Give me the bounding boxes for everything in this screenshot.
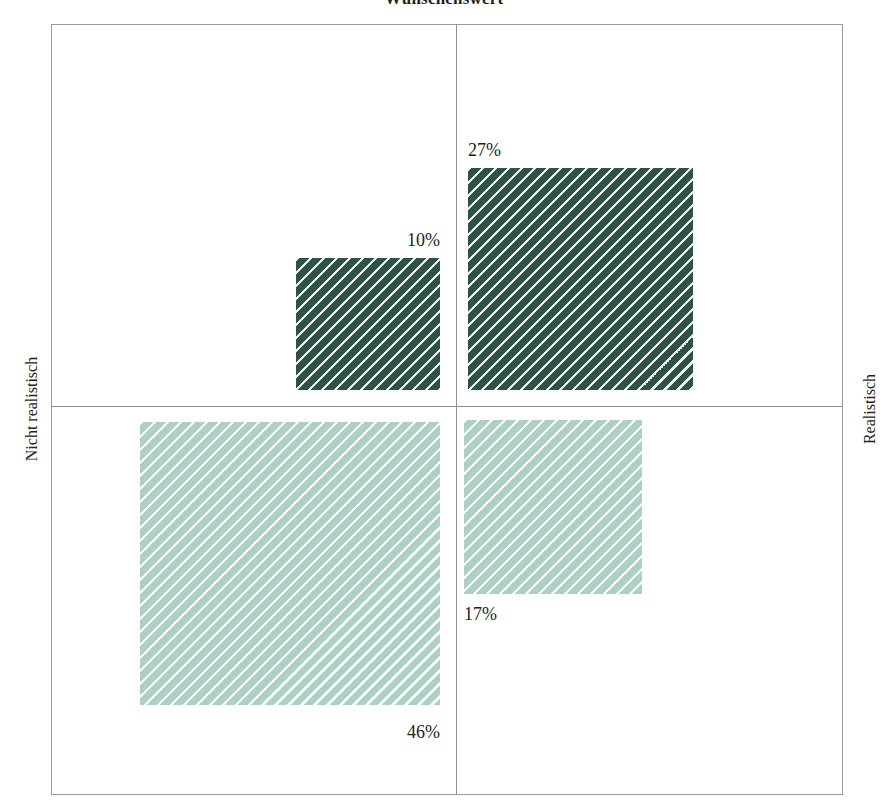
quadrant-vertical-axis [456, 24, 457, 795]
axis-label-left: Nicht realistisch [23, 329, 41, 489]
quadrant-value-top-right: 27% [468, 140, 588, 161]
quadrant-square-bottom-left[interactable] [140, 422, 440, 705]
quadrant-value-top-left: 10% [320, 230, 440, 251]
quadrant-horizontal-axis [51, 406, 843, 407]
quadrant-square-top-left[interactable] [296, 258, 440, 390]
quadrant-square-bottom-right[interactable] [464, 420, 642, 594]
chart-canvas: Wünschenswert Nicht realistisch Realisti… [0, 0, 888, 806]
chart-title: Wünschenswert [0, 0, 888, 9]
quadrant-square-top-right[interactable] [468, 168, 693, 390]
quadrant-value-bottom-right: 17% [464, 604, 584, 625]
quadrant-value-bottom-left: 46% [320, 722, 440, 743]
axis-label-right: Realistisch [861, 329, 879, 489]
